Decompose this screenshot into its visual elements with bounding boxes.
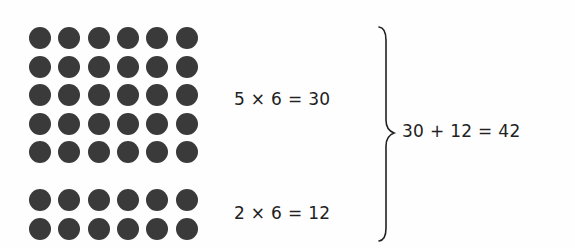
total-equation: 30 + 12 = 42 [402, 121, 521, 141]
array-multiplication-diagram: 5 × 6 = 30 2 × 6 = 12 30 + 12 = 42 [0, 0, 575, 248]
